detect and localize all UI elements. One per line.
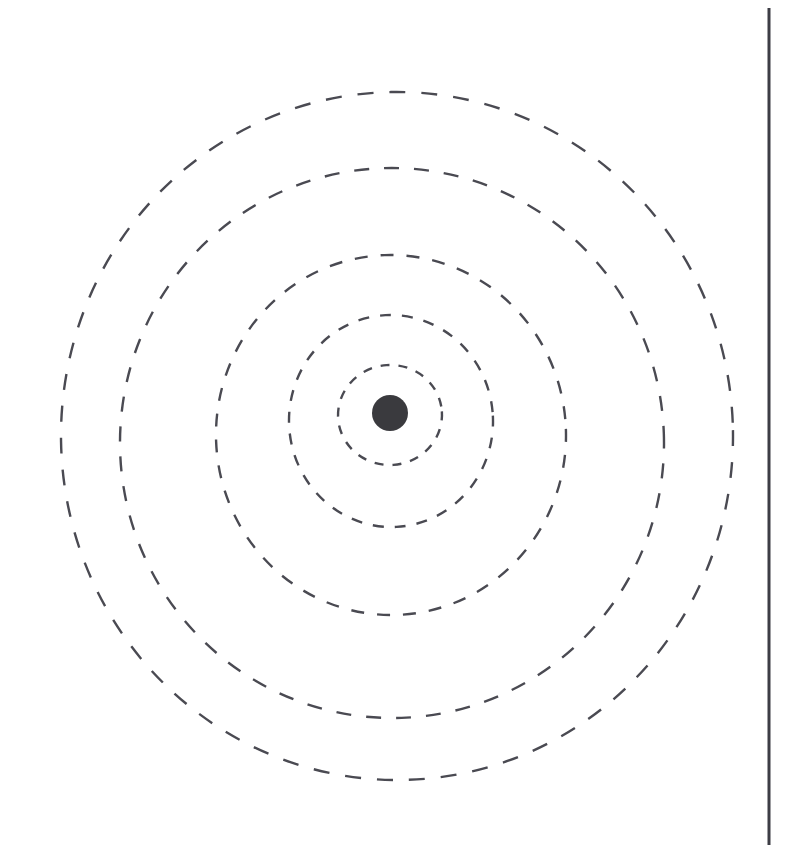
center-node-group bbox=[372, 395, 408, 431]
diagram-canvas bbox=[0, 0, 801, 845]
center-node bbox=[372, 395, 408, 431]
concentric-rings-diagram bbox=[0, 0, 801, 845]
